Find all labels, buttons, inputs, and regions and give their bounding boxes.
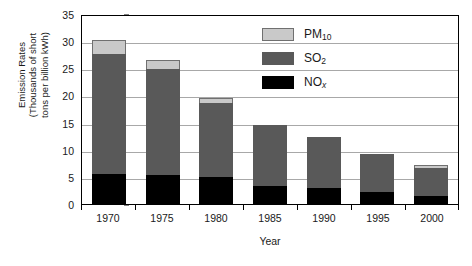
x-axis-tick-mark [135,205,136,210]
x-axis-tick-label: 1995 [361,212,395,224]
emission-rates-stacked-bar-chart: Emission Rates (Thousands of short tons … [0,0,472,266]
x-axis-tick-mark [243,205,244,210]
bar-segment-nox[interactable] [253,186,287,204]
x-axis-tick-mark [189,205,190,210]
x-axis-tick-label: 1985 [253,212,287,224]
x-axis-tick-label: 1975 [145,212,179,224]
x-axis-tick-labels: 1970197519801985199019952000 [81,212,459,224]
bar-segment-so2[interactable] [360,154,394,193]
y-axis-tick-labels: 05101520253035 [48,15,74,205]
bar-segment-nox[interactable] [307,188,341,204]
bar-group[interactable] [360,16,394,204]
bar-segment-pm10[interactable] [92,40,126,54]
x-axis-tick-mark [297,205,298,210]
y-axis-title-line-2: (Thousands of short [27,33,38,118]
x-axis-tick-label: 2000 [415,212,449,224]
y-axis-tick-label: 10 [62,145,74,157]
legend-item-so2[interactable]: SO2 [262,46,331,70]
x-axis-tick-mark [351,205,352,210]
bar-segment-so2[interactable] [92,54,126,175]
y-axis-tick-label: 35 [62,9,74,21]
bar-segment-nox[interactable] [360,192,394,204]
y-axis-tick-label: 5 [68,172,74,184]
x-axis-tick-mark [81,205,82,210]
bar-segment-nox[interactable] [414,196,448,204]
legend-item-nox[interactable]: NOx [262,70,331,94]
bar-segment-pm10[interactable] [146,60,180,69]
bar-group[interactable] [92,16,126,204]
y-axis-tick-label: 25 [62,63,74,75]
bar-segment-so2[interactable] [253,125,287,185]
y-axis-tick-label: 0 [68,199,74,211]
y-axis-tick-label: 15 [62,118,74,130]
bar-group[interactable] [199,16,233,204]
legend-swatch-so2 [262,52,294,65]
x-axis-tick-label: 1990 [307,212,341,224]
legend-item-pm10[interactable]: PM10 [262,22,331,46]
legend-swatch-nox [262,76,294,89]
x-axis-tick-marks [81,205,459,210]
bar-segment-nox[interactable] [92,174,126,204]
legend-label-so2: SO2 [304,51,326,65]
x-axis-tick-mark [458,205,459,210]
y-axis-tick-label: 20 [62,90,74,102]
x-axis-tick-label: 1970 [91,212,125,224]
bar-segment-nox[interactable] [146,175,180,204]
legend: PM10SO2NOx [262,22,331,94]
legend-swatch-pm10 [262,28,294,41]
bar-segment-so2[interactable] [307,137,341,187]
x-axis-tick-label: 1980 [199,212,233,224]
legend-label-pm10: PM10 [304,27,331,41]
y-axis-tick-label: 30 [62,36,74,48]
bar-group[interactable] [146,16,180,204]
legend-label-nox: NOx [304,75,326,89]
bar-segment-nox[interactable] [199,177,233,204]
bar-segment-so2[interactable] [199,103,233,177]
bar-segment-so2[interactable] [414,168,448,196]
x-axis-tick-mark [405,205,406,210]
y-axis-title-line-1: Emission Rates [16,42,27,108]
x-axis-title: Year [81,235,459,247]
bar-group[interactable] [414,16,448,204]
bar-segment-so2[interactable] [146,69,180,175]
